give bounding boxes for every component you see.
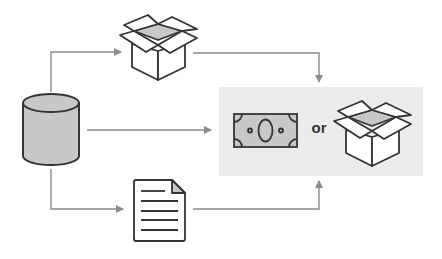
connector-db-to-document (51, 169, 123, 209)
connector-box-to-panel (193, 53, 319, 82)
connector-db-to-box (51, 52, 121, 92)
or-separator-label: or (309, 119, 329, 137)
diagram-canvas (0, 0, 442, 259)
database-icon (23, 94, 79, 165)
open-box-icon (120, 15, 197, 80)
document-icon (134, 180, 185, 241)
connector-document-to-panel (193, 181, 319, 209)
money-bill-icon (234, 114, 297, 147)
